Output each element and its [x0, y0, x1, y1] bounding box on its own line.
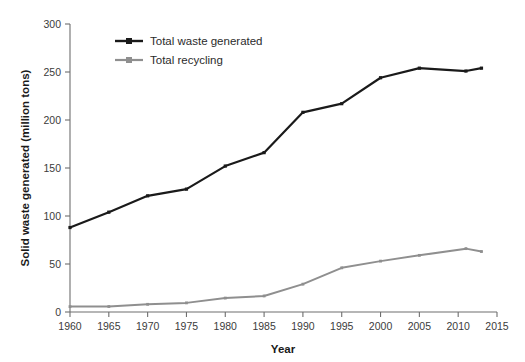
- y-tick-label: 0: [55, 306, 61, 318]
- series-total-recycling: [69, 247, 483, 308]
- legend-swatch-marker-waste: [126, 38, 132, 44]
- data-point-marker: [68, 226, 71, 229]
- x-tick-label: 1975: [175, 320, 199, 332]
- x-tick-label: 2005: [408, 320, 432, 332]
- data-point-marker: [379, 76, 382, 79]
- x-axis-title: Year: [271, 343, 296, 355]
- data-point-marker: [418, 67, 421, 70]
- data-point-marker: [224, 164, 227, 167]
- data-point-marker: [465, 247, 468, 250]
- data-point-marker: [480, 67, 483, 70]
- x-tick-label: 1965: [97, 320, 121, 332]
- y-tick-label: 300: [43, 18, 61, 30]
- data-point-marker: [418, 254, 421, 257]
- x-tick-label: 1990: [291, 320, 315, 332]
- x-tick-label: 2010: [447, 320, 471, 332]
- data-point-marker: [302, 283, 305, 286]
- data-point-marker: [69, 305, 72, 308]
- x-tick-label: 1980: [214, 320, 238, 332]
- series-line: [70, 68, 481, 227]
- data-point-marker: [464, 69, 467, 72]
- data-point-marker: [185, 301, 188, 304]
- data-point-marker: [340, 102, 343, 105]
- y-axis-title: Solid waste generated (million tons): [19, 69, 31, 266]
- y-tick-label: 200: [43, 114, 61, 126]
- x-tick-label: 1985: [252, 320, 276, 332]
- series-group: [68, 67, 483, 308]
- data-point-marker: [107, 211, 110, 214]
- x-tick-label: 2000: [369, 320, 393, 332]
- x-axis-ticks: 1960196519701975198019851990199520002005…: [58, 312, 509, 332]
- y-tick-label: 100: [43, 210, 61, 222]
- legend-item-total-recycling: Total recycling: [115, 54, 223, 66]
- x-tick-label: 1960: [58, 320, 82, 332]
- data-point-marker: [146, 303, 149, 306]
- legend-swatch-marker-recycling: [126, 57, 132, 63]
- data-point-marker: [185, 188, 188, 191]
- chart-canvas: 050100150200250300 196019651970197519801…: [0, 0, 525, 362]
- legend-label-recycling: Total recycling: [150, 54, 223, 66]
- data-point-marker: [340, 266, 343, 269]
- x-tick-label: 1970: [136, 320, 160, 332]
- x-tick-label: 2015: [485, 320, 509, 332]
- data-point-marker: [107, 305, 110, 308]
- data-point-marker: [262, 151, 265, 154]
- y-axis-ticks: 050100150200250300: [43, 18, 70, 318]
- x-tick-label: 1995: [330, 320, 354, 332]
- chart-legend: Total waste generated Total recycling: [115, 35, 263, 66]
- legend-item-total-waste-generated: Total waste generated: [115, 35, 263, 47]
- data-point-marker: [224, 297, 227, 300]
- series-total-waste-generated: [68, 67, 483, 230]
- y-tick-label: 50: [49, 258, 61, 270]
- data-point-marker: [146, 194, 149, 197]
- series-line: [70, 249, 481, 307]
- data-point-marker: [301, 111, 304, 114]
- y-tick-label: 150: [43, 162, 61, 174]
- line-chart: 050100150200250300 196019651970197519801…: [0, 0, 525, 362]
- legend-label-waste: Total waste generated: [150, 35, 263, 47]
- data-point-marker: [480, 250, 483, 253]
- y-tick-label: 250: [43, 66, 61, 78]
- data-point-marker: [263, 295, 266, 298]
- data-point-marker: [379, 260, 382, 263]
